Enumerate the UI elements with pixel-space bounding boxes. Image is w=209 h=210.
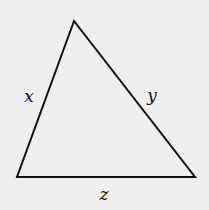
side-label-x: x: [24, 88, 34, 105]
diagram-canvas: x y z: [0, 0, 209, 210]
side-label-y: y: [147, 87, 157, 104]
side-label-z: z: [100, 186, 109, 203]
triangle: [17, 21, 195, 177]
